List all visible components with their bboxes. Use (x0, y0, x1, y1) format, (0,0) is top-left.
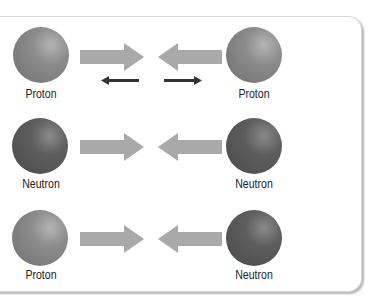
repulsion-arrows (101, 76, 202, 85)
attraction-arrows (80, 43, 222, 253)
arrows-layer (0, 0, 379, 305)
